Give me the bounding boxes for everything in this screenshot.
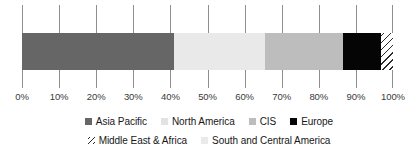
x-tick-label: 10% [50,90,69,103]
x-tick-label: 90% [347,90,366,103]
legend-label: North America [172,115,235,128]
legend-item-cis[interactable]: CIS [249,115,277,128]
legend-swatch-europe-icon [290,118,297,125]
bar-segment-europe [343,33,381,70]
legend-label: South and Central America [212,134,330,147]
legend-swatch-south-central-icon [201,137,208,144]
legend-swatch-north-america-icon [161,118,168,125]
x-tick-label: 70% [272,90,291,103]
legend-swatch-mea-icon [88,137,95,144]
legend-label: Middle East & Africa [99,134,187,147]
chart-legend: Asia PacificNorth AmericaCISEuropeMiddle… [0,112,418,150]
legend-item-asia-pacific[interactable]: Asia Pacific [85,115,147,128]
x-tick-label: 30% [124,90,143,103]
legend-item-south-central[interactable]: South and Central America [201,134,330,147]
legend-row-2: Middle East & AfricaSouth and Central Am… [0,131,418,150]
bar-segment-asia-pacific [22,33,174,70]
x-tick-label: 20% [87,90,106,103]
legend-row-1: Asia PacificNorth AmericaCISEurope [0,112,418,131]
legend-label: Asia Pacific [96,115,147,128]
x-tick-label: 100% [381,90,405,103]
bar-segment-cis [265,33,343,70]
x-axis-tick-labels: 0%10%20%30%40%50%60%70%80%90%100% [0,90,418,106]
legend-swatch-cis-icon [249,118,256,125]
bar-segment-north-america [174,33,265,70]
x-tick-label: 40% [161,90,180,103]
legend-label: CIS [260,115,277,128]
legend-item-mea[interactable]: Middle East & Africa [88,134,187,147]
stacked-bar-chart: 0%10%20%30%40%50%60%70%80%90%100% Asia P… [0,0,418,154]
x-tick-label: 50% [198,90,217,103]
x-tick-label: 0% [15,90,29,103]
legend-item-north-america[interactable]: North America [161,115,235,128]
legend-swatch-asia-pacific-icon [85,118,92,125]
bar-segment-mea [381,33,393,70]
stacked-bar-series [22,33,393,70]
legend-item-europe[interactable]: Europe [290,115,333,128]
x-tick-label: 80% [309,90,328,103]
x-tick-label: 60% [235,90,254,103]
legend-label: Europe [301,115,333,128]
